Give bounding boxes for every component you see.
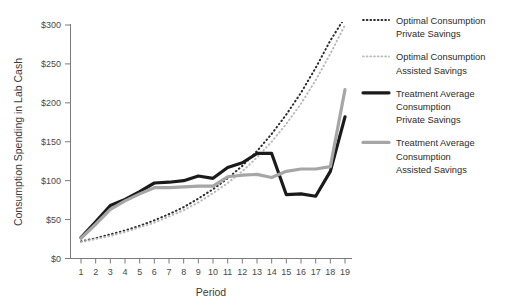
x-tick-label: 18 [325, 267, 335, 277]
x-tick-label: 9 [196, 267, 201, 277]
y-axis-title: Consumption Spending in Lab Cash [12, 58, 24, 226]
x-tick-label: 8 [181, 267, 186, 277]
consumption-spending-line-chart: Consumption Spending in Lab Cash $0$50$1… [0, 0, 516, 308]
legend-label-2: Consumption [396, 102, 451, 112]
x-tick-label: 4 [122, 267, 127, 277]
x-tick-label: 3 [108, 267, 113, 277]
legend-label-3: Treatment Average [396, 138, 475, 148]
legend-label-2: Private Savings [396, 115, 461, 125]
x-tick-label: 12 [237, 267, 247, 277]
x-tick-label: 7 [166, 267, 171, 277]
x-tick-label: 14 [267, 267, 277, 277]
y-tick-label: $300 [41, 20, 61, 30]
x-tick-label: 15 [281, 267, 291, 277]
legend-label-3: Consumption [396, 152, 451, 162]
x-tick-label: 16 [296, 267, 306, 277]
legend-label-3: Assisted Savings [396, 165, 467, 175]
x-tick-label: 11 [223, 267, 232, 277]
legend-label-0: Optimal Consumption [396, 16, 485, 26]
legend-label-0: Private Savings [396, 29, 461, 39]
x-tick-label: 1 [78, 267, 83, 277]
legend-label-1: Assisted Savings [396, 66, 467, 76]
y-tick-label: $100 [41, 176, 61, 186]
y-tick-label: $250 [41, 59, 61, 69]
y-tick-label: $0 [51, 254, 61, 264]
y-tick-label: $50 [46, 215, 61, 225]
x-tick-label: 5 [137, 267, 142, 277]
y-tick-label: $200 [41, 98, 61, 108]
x-axis-title: Period [196, 286, 227, 298]
legend-label-1: Optimal Consumption [396, 52, 485, 62]
x-tick-label: 10 [208, 267, 218, 277]
legend-label-2: Treatment Average [396, 89, 475, 99]
x-tick-label: 2 [93, 267, 98, 277]
x-tick-label: 17 [311, 267, 321, 277]
x-tick-label: 19 [340, 267, 350, 277]
x-tick-label: 13 [252, 267, 262, 277]
x-tick-label: 6 [152, 267, 157, 277]
y-tick-label: $150 [41, 137, 61, 147]
